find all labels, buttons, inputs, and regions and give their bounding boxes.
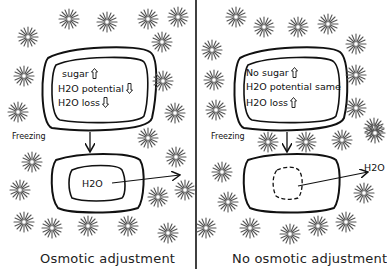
arrow-down-icon: [102, 97, 109, 108]
right-line-water-loss: H2O loss: [246, 97, 297, 108]
right-outflow-arrow: [298, 172, 368, 186]
arrow-up-icon: [290, 97, 297, 108]
left-line-water-loss: H2O loss: [58, 97, 109, 108]
left-outflow-arrow: [112, 175, 180, 183]
right-line-no-sugar: No sugar: [246, 67, 298, 78]
right-outflow-water-label: H2O: [364, 163, 385, 173]
arrow-up-icon: [291, 67, 298, 78]
ice-crystal-icons-left: [8, 7, 195, 243]
right-freezing-label: Freezing: [211, 133, 245, 141]
diagram-canvas: [0, 0, 387, 269]
right-after-cell: [244, 154, 340, 213]
left-after-water-label: H2O: [82, 179, 103, 189]
left-caption: Osmotic adjustment: [40, 252, 175, 265]
collapsed-protoplast: [273, 167, 302, 199]
ice-crystal-icons-right: [196, 7, 385, 244]
right-caption: No osmotic adjustment: [232, 252, 387, 265]
arrow-down-icon: [126, 83, 133, 94]
left-freezing-label: Freezing: [12, 133, 46, 141]
left-line-sugar: sugar: [62, 68, 98, 79]
right-line-water-potential: H2O potential same: [246, 82, 341, 92]
arrow-up-icon: [91, 68, 98, 79]
left-line-water-potential: H2O potential: [58, 83, 133, 94]
